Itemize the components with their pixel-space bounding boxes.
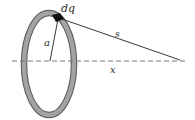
label-s: s	[115, 29, 120, 39]
charged-ring	[24, 13, 74, 115]
radius-line	[50, 19, 58, 61]
distance-line	[59, 18, 180, 60]
ring-diagram: dq a s x	[0, 0, 195, 120]
label-dq: dq	[61, 2, 75, 15]
label-x: x	[110, 64, 116, 75]
label-a: a	[44, 37, 50, 48]
